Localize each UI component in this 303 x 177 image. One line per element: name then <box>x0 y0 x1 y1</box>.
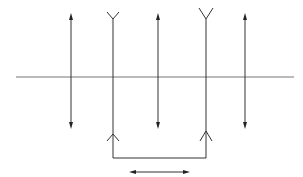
arrow-up-icon <box>156 13 160 20</box>
diverging-lens-2 <box>107 12 119 158</box>
converging-lens-1 <box>69 13 73 129</box>
converging-lens-3 <box>156 13 160 129</box>
v-head-top-icon <box>199 8 213 19</box>
converging-lens-5 <box>243 13 247 129</box>
arrow-down-icon <box>243 122 247 129</box>
diverging-lens-4 <box>199 8 213 158</box>
translation-arrow <box>129 170 190 174</box>
arrow-left-icon <box>129 170 136 174</box>
arrow-right-icon <box>183 170 190 174</box>
v-head-top-icon <box>107 12 119 19</box>
arrow-down-icon <box>69 122 73 129</box>
optical-diagram <box>0 0 303 177</box>
arrow-up-icon <box>69 13 73 20</box>
arrow-down-icon <box>156 122 160 129</box>
arrow-up-icon <box>243 13 247 20</box>
